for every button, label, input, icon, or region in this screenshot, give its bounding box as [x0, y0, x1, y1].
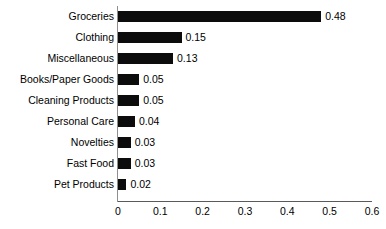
bar-fill — [118, 158, 131, 169]
bar-row: Groceries0.48 — [0, 6, 386, 27]
bar-value-label: 0.02 — [130, 174, 150, 195]
bar-value-label: 0.13 — [177, 48, 197, 69]
x-tick-label: 0.4 — [280, 203, 295, 219]
bar-value-label: 0.03 — [135, 132, 155, 153]
bar-rows: Groceries0.48Clothing0.15Miscellaneous0.… — [0, 6, 386, 195]
y-axis-line — [117, 6, 118, 202]
bar — [118, 116, 135, 127]
bar-fill — [118, 53, 173, 64]
bar-category-label: Groceries — [68, 6, 114, 27]
bar-category-label: Fast Food — [67, 153, 114, 174]
bar-value-label: 0.05 — [143, 90, 163, 111]
bar-row: Personal Care0.04 — [0, 111, 386, 132]
bar — [118, 158, 131, 169]
x-tick-label: 0 — [115, 203, 121, 219]
x-axis-line — [118, 201, 372, 202]
bar-fill — [118, 95, 139, 106]
bar-row: Fast Food0.03 — [0, 153, 386, 174]
bar-fill — [118, 179, 126, 190]
bar-value-label: 0.04 — [139, 111, 159, 132]
bar-fill — [118, 11, 321, 22]
bar-fill — [118, 74, 139, 85]
x-tick-label: 0.1 — [153, 203, 168, 219]
bar-value-label: 0.05 — [143, 69, 163, 90]
bar-category-label: Cleaning Products — [28, 90, 114, 111]
bar-category-label: Books/Paper Goods — [20, 69, 114, 90]
bar-row: Pet Products0.02 — [0, 174, 386, 195]
bar-fill — [118, 116, 135, 127]
bar-value-label: 0.48 — [325, 6, 345, 27]
x-tick-label: 0.3 — [238, 203, 253, 219]
bar-row: Clothing0.15 — [0, 27, 386, 48]
x-axis-tick-labels: 00.10.20.30.40.50.6 — [0, 203, 386, 219]
bar-fill — [118, 137, 131, 148]
bar-category-label: Clothing — [75, 27, 114, 48]
bar — [118, 53, 173, 64]
bar-chart: Groceries0.48Clothing0.15Miscellaneous0.… — [0, 0, 386, 229]
bar-value-label: 0.03 — [135, 153, 155, 174]
bar-category-label: Personal Care — [47, 111, 114, 132]
bar-category-label: Novelties — [71, 132, 114, 153]
bar — [118, 95, 139, 106]
bar — [118, 179, 126, 190]
bar — [118, 137, 131, 148]
x-tick-label: 0.5 — [322, 203, 337, 219]
bar-category-label: Pet Products — [54, 174, 114, 195]
bar — [118, 11, 321, 22]
bar — [118, 74, 139, 85]
bar-row: Books/Paper Goods0.05 — [0, 69, 386, 90]
bar-fill — [118, 32, 182, 43]
bar-row: Novelties0.03 — [0, 132, 386, 153]
x-tick-label: 0.2 — [195, 203, 210, 219]
x-tick-label: 0.6 — [365, 203, 380, 219]
bar-row: Cleaning Products0.05 — [0, 90, 386, 111]
bar-row: Miscellaneous0.13 — [0, 48, 386, 69]
bar-category-label: Miscellaneous — [47, 48, 114, 69]
bar — [118, 32, 182, 43]
bar-value-label: 0.15 — [186, 27, 206, 48]
